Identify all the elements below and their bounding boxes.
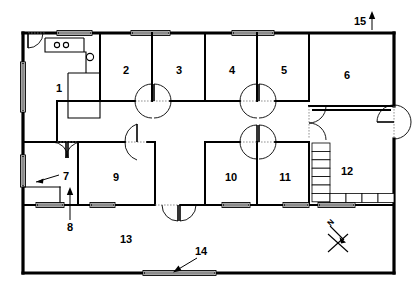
kitchen-fixtures-room-1 xyxy=(45,38,100,118)
room-label-3: 3 xyxy=(176,64,182,76)
room-label-9: 9 xyxy=(113,171,119,183)
door-room9-north xyxy=(125,124,147,160)
compass-rose: N xyxy=(325,217,348,252)
room-label-11: 11 xyxy=(279,171,291,183)
room-label-5: 5 xyxy=(281,64,287,76)
room-label-2: 2 xyxy=(123,64,129,76)
room-label-4: 4 xyxy=(229,64,236,76)
compass-north-label: N xyxy=(325,217,336,228)
window-room12-south xyxy=(318,203,355,208)
callout-8: 8 xyxy=(67,187,73,233)
window-north-b xyxy=(131,31,170,36)
sink-basin xyxy=(86,53,93,60)
callout-label-14: 14 xyxy=(195,245,208,257)
callout-7: 7 xyxy=(36,170,69,184)
callout-label-8: 8 xyxy=(67,221,73,233)
window-north-a xyxy=(57,31,92,36)
callout-label-15: 15 xyxy=(354,15,366,27)
window-west-upper xyxy=(21,62,26,112)
window-room10-south xyxy=(222,203,250,208)
door-room6-southwest xyxy=(309,106,326,140)
window-room11-south xyxy=(283,203,309,208)
stove-burner-left xyxy=(54,42,59,47)
stove-burner-right xyxy=(63,42,68,47)
room-label-13: 13 xyxy=(120,233,132,245)
door-entry-northwest xyxy=(28,33,45,48)
room-label-12: 12 xyxy=(341,165,353,177)
callout-label-7: 7 xyxy=(63,170,69,182)
room-label-6: 6 xyxy=(344,69,350,81)
window-room9-south xyxy=(90,203,115,208)
room-label-10: 10 xyxy=(225,171,237,183)
interior-walls xyxy=(23,33,394,205)
exterior-windows xyxy=(21,31,275,276)
callout-14: 14 xyxy=(173,245,208,273)
window-south-main xyxy=(143,271,216,276)
window-north-c xyxy=(232,31,274,36)
callout-15: 15 xyxy=(354,11,375,30)
room-label-1: 1 xyxy=(56,82,62,94)
double-door-east-exterior xyxy=(377,105,411,139)
window-alcove-south xyxy=(36,203,64,208)
double-door-to-room-13 xyxy=(155,205,196,221)
floor-plan-drawing: 1 2 3 4 5 6 9 10 11 12 13 7 8 14 xyxy=(0,0,417,296)
window-west-lower xyxy=(21,155,26,187)
floor-plan-svg: 1 2 3 4 5 6 9 10 11 12 13 7 8 14 xyxy=(0,0,417,296)
